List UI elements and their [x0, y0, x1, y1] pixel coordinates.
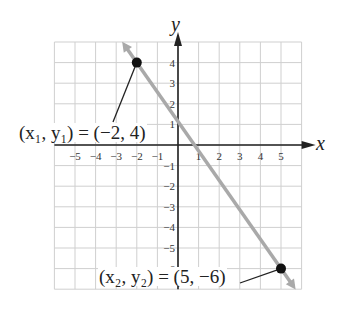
y-tick-label: −3	[163, 201, 175, 213]
y-tick-label: −1	[163, 160, 175, 172]
x-tick-label: 3	[237, 150, 243, 162]
chart-plot: −5−4−3−2−1123454321−1−2−3−4−5−6	[0, 0, 344, 310]
x-tick-label: −4	[90, 150, 102, 162]
x-tick-label: −2	[131, 150, 143, 162]
y-axis-label: y	[171, 14, 180, 34]
point-2-marker	[276, 264, 286, 274]
y-tick-label: −2	[163, 180, 175, 192]
y-tick-label: 1	[170, 118, 176, 130]
x-axis-arrow-icon	[302, 141, 316, 149]
x-tick-label: 4	[258, 150, 264, 162]
point-1-marker	[132, 58, 142, 68]
coordinate-plane: −5−4−3−2−1123454321−1−2−3−4−5−6 y x (x₁,…	[0, 0, 344, 310]
x-tick-label: −5	[69, 150, 81, 162]
y-tick-label: −4	[163, 221, 175, 233]
x-tick-label: 5	[278, 150, 284, 162]
x-tick-label: 2	[216, 150, 222, 162]
y-tick-label: −5	[163, 242, 175, 254]
point-1-label: (x₁, y₁) = (−2, 4)	[18, 123, 147, 142]
x-axis-label: x	[316, 133, 325, 153]
y-tick-label: 4	[170, 57, 176, 69]
y-tick-label: 3	[170, 77, 176, 89]
x-tick-label: −1	[152, 150, 164, 162]
x-tick-label: −3	[110, 150, 122, 162]
point-2-label: (x₂, y₂) = (5, −6)	[98, 267, 227, 286]
